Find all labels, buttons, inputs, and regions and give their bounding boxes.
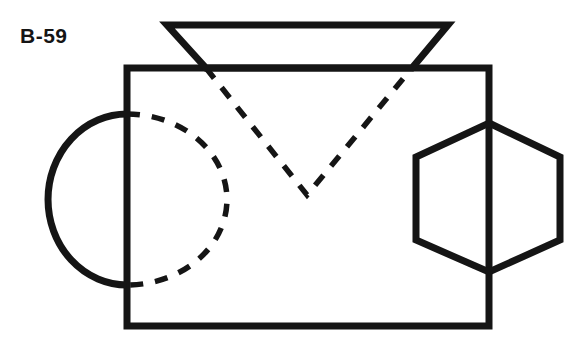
hidden-vee [206,68,412,195]
left-semicircle [48,114,127,285]
orthographic-figure [0,0,582,349]
top-trapezoid [167,25,448,68]
drawing-sheet: B-59 [0,0,582,349]
hidden-arc [127,114,227,285]
